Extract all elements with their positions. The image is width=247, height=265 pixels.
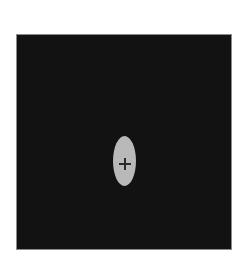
stimulus-canvas: [0, 0, 247, 265]
crosshair-vertical-line: [124, 158, 126, 170]
fixation-crosshair-icon: [119, 158, 131, 170]
